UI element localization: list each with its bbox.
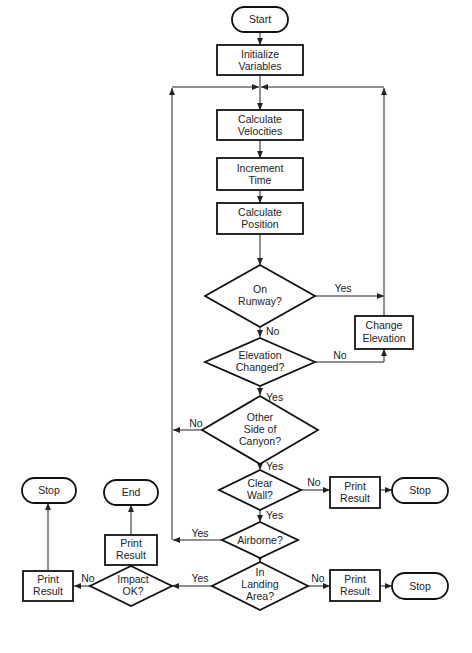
on-runway-decision: On Runway? [205, 265, 315, 327]
svg-text:Result: Result [116, 549, 146, 561]
svg-text:In: In [256, 566, 265, 578]
print-result-box-landing: Print Result [330, 570, 380, 601]
svg-text:OK?: OK? [122, 585, 143, 597]
svg-text:Wall?: Wall? [247, 489, 273, 501]
in-landing-area-decision: In Landing Area? [212, 562, 308, 610]
change-elevation-box: Change Elevation [355, 316, 413, 349]
svg-text:Stop: Stop [38, 484, 60, 496]
svg-text:On: On [253, 283, 267, 295]
stop-terminal-impact: Stop [22, 478, 76, 503]
clear-wall-decision: Clear Wall? [219, 470, 301, 510]
svg-text:Print: Print [344, 480, 366, 492]
edge-label-runway-no: No [266, 325, 280, 337]
svg-text:Other: Other [247, 411, 274, 423]
svg-text:Result: Result [340, 585, 370, 597]
svg-text:Initialize: Initialize [241, 48, 279, 60]
start-terminal: Start [232, 7, 288, 32]
svg-text:Print: Print [120, 537, 142, 549]
end-terminal: End [104, 480, 158, 505]
svg-text:Calculate: Calculate [238, 206, 282, 218]
svg-text:Runway?: Runway? [238, 295, 282, 307]
print-result-box-impact-fail: Print Result [23, 571, 73, 601]
edge-label-wall-no: No [307, 476, 321, 488]
svg-text:Airborne?: Airborne? [237, 534, 283, 546]
svg-text:Result: Result [340, 492, 370, 504]
svg-text:Variables: Variables [239, 60, 282, 72]
svg-text:Side of: Side of [244, 423, 277, 435]
stop-terminal-landing: Stop [392, 573, 448, 599]
svg-text:Canyon?: Canyon? [239, 435, 281, 447]
other-side-of-canyon-decision: Other Side of Canyon? [202, 396, 318, 464]
svg-text:Increment: Increment [237, 162, 284, 174]
edge-label-wall-yes: Yes [266, 509, 283, 521]
edge-label-elev-no: No [333, 349, 347, 361]
svg-text:Velocities: Velocities [238, 125, 282, 137]
svg-text:End: End [122, 486, 141, 498]
svg-text:Landing: Landing [241, 578, 279, 590]
stop-terminal-wall: Stop [392, 478, 448, 503]
svg-text:Impact: Impact [117, 573, 149, 585]
svg-text:Stop: Stop [409, 484, 431, 496]
impact-ok-decision: Impact OK? [90, 566, 172, 606]
edge-label-landing-no: No [311, 572, 325, 584]
calculate-velocities-box: Calculate Velocities [217, 110, 303, 140]
edge-label-impact-no: No [81, 572, 95, 584]
edge-label-runway-yes: Yes [334, 282, 351, 294]
svg-text:Result: Result [33, 585, 63, 597]
edge-label-airborne-yes: Yes [191, 527, 208, 539]
flowchart: Start Initialize Variables Calculate Vel… [0, 0, 472, 653]
svg-text:Print: Print [37, 573, 59, 585]
elevation-changed-decision: Elevation Changed? [205, 338, 315, 386]
svg-text:Time: Time [249, 174, 272, 186]
airborne-decision: Airborne? [222, 522, 298, 558]
svg-text:Elevation: Elevation [238, 349, 281, 361]
initialize-variables-box: Initialize Variables [217, 45, 303, 75]
edge-label-landing-yes: Yes [191, 572, 208, 584]
svg-text:Position: Position [241, 218, 279, 230]
increment-time-box: Increment Time [217, 158, 303, 190]
edge-label-other-yes: Yes [266, 460, 283, 472]
svg-text:Changed?: Changed? [236, 361, 285, 373]
svg-text:Change: Change [366, 319, 403, 331]
print-result-box-wall: Print Result [330, 477, 380, 508]
edge-label-other-no: No [189, 417, 203, 429]
svg-text:Print: Print [344, 573, 366, 585]
svg-text:Elevation: Elevation [362, 332, 405, 344]
calculate-position-box: Calculate Position [217, 203, 303, 234]
svg-text:Calculate: Calculate [238, 113, 282, 125]
print-result-box-impact-ok: Print Result [105, 535, 157, 565]
svg-text:Clear: Clear [247, 477, 273, 489]
svg-text:Area?: Area? [246, 590, 274, 602]
svg-text:Stop: Stop [409, 580, 431, 592]
svg-text:Start: Start [249, 13, 271, 25]
